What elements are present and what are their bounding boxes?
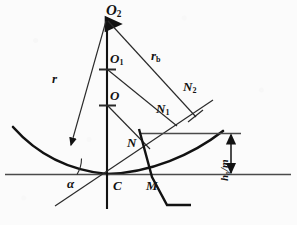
hook-line — [139, 129, 191, 205]
label-c: C — [113, 179, 122, 192]
radius-r-line — [71, 21, 106, 145]
technical-diagram: O2 O1 O r rb N2 N1 N M C α h₀/m — [0, 0, 297, 225]
label-o1: O1 — [110, 52, 123, 65]
label-rb: rb — [151, 49, 161, 62]
label-r: r — [52, 72, 57, 85]
label-o2: O2 — [106, 3, 122, 18]
label-n: N — [127, 136, 136, 149]
label-m: M — [146, 179, 158, 192]
radius-rb-line — [108, 21, 196, 117]
label-n2: N2 — [183, 80, 196, 93]
label-o: O — [110, 89, 119, 102]
angle-alpha-arc — [77, 159, 82, 175]
label-n1: N1 — [156, 102, 169, 115]
label-alpha: α — [67, 177, 74, 190]
label-height-h0-m: h₀/m — [219, 159, 230, 181]
